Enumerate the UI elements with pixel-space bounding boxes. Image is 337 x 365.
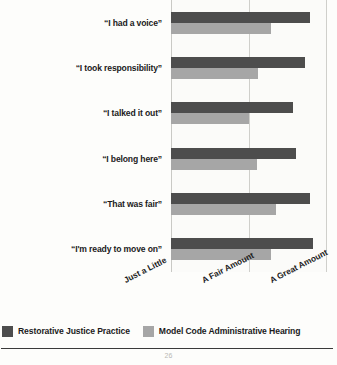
legend-label: Restorative Justice Practice: [18, 326, 130, 336]
value-axis-tick-labels: Just a LittleA Fair AmountA Great Amount: [0, 272, 337, 314]
category-label: “I talked it out”: [103, 108, 162, 118]
bar-model-code-administrative-hearing: [171, 68, 258, 79]
gridline-a-fair-amount: [249, 0, 250, 272]
bar-model-code-administrative-hearing: [171, 113, 249, 124]
bar-group: [171, 12, 327, 34]
legend-item: Restorative Justice Practice: [2, 326, 130, 337]
bar-restorative-justice-practice: [171, 193, 310, 204]
bar-model-code-administrative-hearing: [171, 204, 276, 215]
legend-swatch-icon: [2, 326, 13, 337]
bar-model-code-administrative-hearing: [171, 249, 271, 260]
category-label: “I'm ready to move on”: [71, 244, 162, 254]
footer-divider: [1, 348, 333, 349]
plot-wrapper: “I had a voice”“I took responsibility”“I…: [0, 0, 337, 272]
bar-group: [171, 148, 327, 170]
gridline-just-a-little: [171, 0, 172, 272]
category-label: “I belong here”: [102, 154, 162, 164]
bar-restorative-justice-practice: [171, 148, 296, 159]
bar-chart: “I had a voice”“I took responsibility”“I…: [0, 0, 337, 365]
category-axis-labels: “I had a voice”“I took responsibility”“I…: [0, 0, 168, 272]
bar-model-code-administrative-hearing: [171, 159, 257, 170]
category-label: “I took responsibility”: [76, 63, 162, 73]
bar-model-code-administrative-hearing: [171, 23, 271, 34]
bar-group: [171, 102, 327, 124]
chart-legend: Restorative Justice PracticeModel Code A…: [0, 322, 337, 340]
bar-restorative-justice-practice: [171, 238, 313, 249]
bar-restorative-justice-practice: [171, 12, 310, 23]
category-label: “That was fair”: [103, 199, 162, 209]
legend-label: Model Code Administrative Hearing: [159, 326, 301, 336]
bar-restorative-justice-practice: [171, 57, 305, 68]
category-label: “I had a voice”: [104, 18, 162, 28]
bar-group: [171, 57, 327, 79]
legend-item: Model Code Administrative Hearing: [143, 326, 301, 337]
legend-swatch-icon: [143, 326, 154, 337]
bar-restorative-justice-practice: [171, 102, 293, 113]
gridline-a-great-amount: [326, 0, 327, 272]
page-number: 26: [0, 352, 337, 359]
bar-group: [171, 193, 327, 215]
plot-area: [171, 0, 327, 272]
